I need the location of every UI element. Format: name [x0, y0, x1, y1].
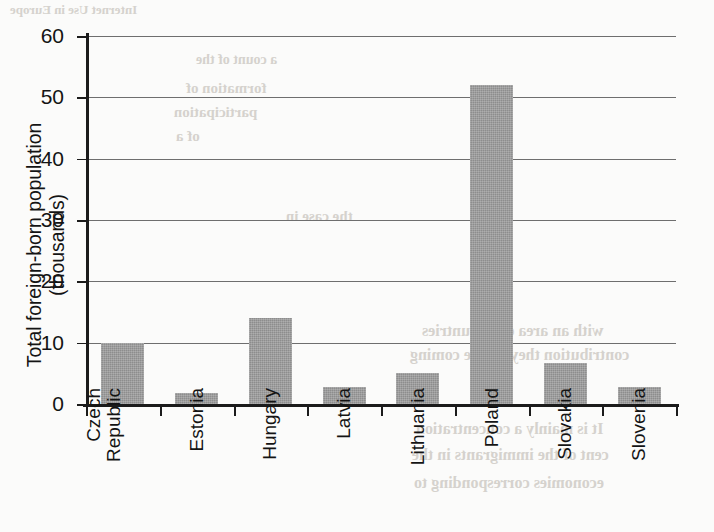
- x-axis-category-label: Latvia: [334, 388, 354, 439]
- y-axis-tick: 40: [77, 159, 86, 161]
- x-axis-category-label: Poland: [482, 388, 502, 447]
- gridline: [86, 159, 676, 160]
- y-axis-tick-label: 50: [41, 85, 64, 109]
- gridline: [86, 220, 676, 221]
- y-axis-line: [86, 33, 89, 407]
- y-axis-tick: 20: [77, 281, 86, 283]
- x-axis-tick: [381, 405, 383, 416]
- x-axis-tick: [529, 405, 531, 416]
- y-axis-tick: 30: [77, 220, 86, 222]
- x-axis-category-label: CzechRepublic: [83, 388, 123, 462]
- x-axis-category-label: Estonia: [187, 388, 207, 451]
- x-axis-category-label: Hungary: [261, 388, 281, 460]
- y-axis-tick-label: 30: [41, 208, 64, 232]
- gridline: [86, 97, 676, 98]
- y-axis-tick: 50: [77, 97, 86, 99]
- y-axis-tick-label: 40: [41, 147, 64, 171]
- x-axis-tick: [455, 405, 457, 416]
- y-axis-tick: 10: [77, 343, 86, 345]
- plot-area: 0102030405060: [86, 36, 676, 404]
- x-axis-category-label: Lithuania: [408, 388, 428, 465]
- y-axis-tick-label: 0: [52, 392, 64, 416]
- x-axis-line: [83, 404, 679, 407]
- x-axis-tick: [602, 405, 604, 416]
- y-axis-title: Total foreign-born population (thousands…: [23, 75, 69, 415]
- y-axis-tick-label: 20: [41, 269, 64, 293]
- x-axis-category-label: Slovakia: [556, 388, 576, 460]
- bar: [470, 85, 513, 404]
- bar-chart: Total foreign-born population (thousands…: [0, 0, 714, 532]
- y-axis-tick: 60: [77, 36, 86, 38]
- x-axis-tick: [160, 405, 162, 416]
- x-axis-tick: [676, 405, 678, 416]
- x-axis-tick: [234, 405, 236, 416]
- gridline: [86, 281, 676, 282]
- x-axis-tick: [307, 405, 309, 416]
- gridline: [86, 36, 676, 37]
- y-axis-tick-label: 10: [41, 331, 64, 355]
- gridline: [86, 343, 676, 344]
- x-axis-category-label: Slovenia: [629, 388, 649, 461]
- y-axis-tick-label: 60: [41, 24, 64, 48]
